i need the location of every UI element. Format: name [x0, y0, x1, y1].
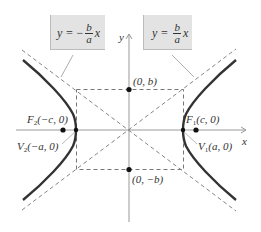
v2-coords: (−a, 0)	[27, 140, 58, 152]
label-bottom: (0, −b)	[132, 174, 163, 185]
point-top	[126, 87, 131, 92]
label-v2: V2(−a, 0)	[17, 141, 58, 154]
point-v1	[181, 128, 185, 132]
point-v2	[74, 128, 78, 132]
eq-var: x	[183, 26, 188, 41]
v1-name: V	[198, 140, 205, 152]
x-axis-label: x	[242, 136, 247, 147]
eq-fraction: b a	[173, 22, 181, 45]
point-f2	[60, 127, 65, 132]
f2-name: F	[27, 113, 34, 125]
asymptote-eq-positive: y = b a x	[152, 18, 188, 48]
eq-numerator: b	[173, 22, 181, 34]
v2-name: V	[17, 140, 24, 152]
label-top: (0, b)	[133, 76, 157, 87]
eq-denominator: a	[86, 34, 92, 45]
v1-coords: (a, 0)	[208, 140, 232, 152]
label-v1: V1(a, 0)	[198, 141, 232, 154]
eq-denominator: a	[174, 34, 180, 45]
hyperbola-diagram: y = − b a x y = b a x y x (0, b) (0, −b)…	[0, 0, 261, 232]
f1-coords: (c, 0)	[196, 113, 219, 125]
leader-right	[172, 55, 194, 77]
f2-coords: (−c, 0)	[37, 113, 68, 125]
leader-left	[61, 55, 73, 77]
eq-numerator: b	[85, 22, 93, 34]
label-f2: F2(−c, 0)	[27, 114, 68, 127]
y-axis-label: y	[119, 32, 124, 43]
label-f1: F1(c, 0)	[186, 114, 219, 127]
asymptote-eq-negative: y = − b a x	[57, 18, 100, 48]
f1-name: F	[186, 113, 193, 125]
eq-sign: −	[76, 26, 83, 41]
point-bottom	[126, 167, 131, 172]
point-f1	[193, 127, 198, 132]
eq-equals: =	[62, 26, 76, 41]
eq-var: x	[95, 26, 100, 41]
eq-fraction: b a	[85, 22, 93, 45]
eq-equals: =	[157, 26, 171, 41]
